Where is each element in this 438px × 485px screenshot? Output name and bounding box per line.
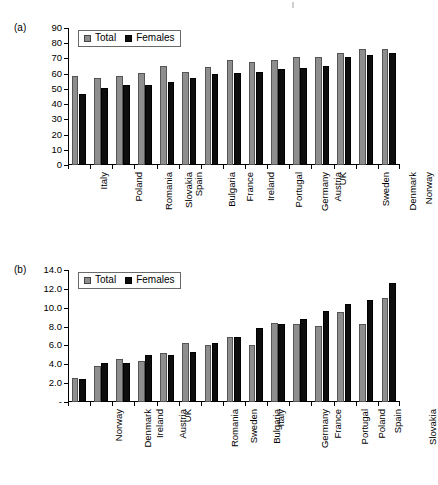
x-tick — [267, 402, 268, 406]
x-category-label: Italy — [99, 172, 109, 189]
bar-total — [249, 62, 256, 165]
bar-group — [90, 28, 112, 165]
legend-swatch-total-icon — [84, 35, 91, 42]
bar-females — [79, 94, 86, 165]
x-tick — [356, 402, 357, 406]
bar-total — [138, 73, 145, 165]
legend-a: Total Females — [78, 30, 181, 47]
bar-total — [116, 359, 123, 402]
bar-total — [249, 345, 256, 402]
y-tick-label: 30 — [51, 115, 62, 125]
y-tick-label: 40 — [51, 99, 62, 109]
bar-group — [157, 270, 179, 402]
legend-swatch-females-icon — [125, 277, 132, 284]
bar-group — [179, 28, 201, 165]
bar-total — [293, 57, 300, 165]
bar-females — [300, 68, 307, 165]
y-tick-label: 90 — [51, 23, 62, 33]
bar-total — [337, 53, 344, 165]
x-category-label: Slovakia — [184, 172, 194, 208]
bar-group — [378, 270, 400, 402]
x-tick — [267, 165, 268, 169]
legend-item-females-a: Females — [125, 33, 174, 43]
bar-females — [101, 88, 108, 165]
x-category-label: Spain — [394, 409, 404, 433]
x-tick — [157, 165, 158, 169]
x-tick — [179, 402, 180, 406]
bar-females — [278, 69, 285, 166]
bar-group — [179, 270, 201, 402]
bar-females — [345, 304, 352, 402]
x-tick — [90, 402, 91, 406]
legend-label-females: Females — [136, 33, 174, 43]
bar-total — [94, 78, 101, 165]
legend-label-females: Females — [136, 275, 174, 285]
bar-females — [389, 283, 396, 402]
bar-females — [145, 85, 152, 165]
x-category-label: Spain — [195, 172, 205, 196]
bar-females — [145, 355, 152, 402]
bar-females — [234, 73, 241, 165]
bar-total — [94, 366, 101, 402]
x-category-label: Germany — [320, 172, 330, 211]
bar-group — [334, 28, 356, 165]
x-category-label: Romania — [164, 172, 174, 210]
x-tick — [245, 165, 246, 169]
x-category-label: Poland — [377, 409, 387, 439]
bar-total — [182, 72, 189, 165]
bar-females — [79, 379, 86, 402]
bar-females — [278, 324, 285, 402]
x-category-label: France — [333, 409, 343, 439]
plot-area-b: -2.04.06.08.010.012.014.0 — [68, 270, 400, 402]
bar-females — [212, 74, 219, 165]
bar-group — [267, 28, 289, 165]
y-tick-label: 12.0 — [44, 284, 63, 294]
x-category-label: Poland — [133, 172, 143, 202]
bar-group — [68, 270, 90, 402]
panel-b-label: (b) — [14, 264, 26, 275]
x-category-label: Norway — [114, 409, 124, 441]
bar-group — [356, 28, 378, 165]
chart-panel-a: (a) 0102030405060708090 Total Females It… — [0, 0, 412, 245]
x-tick — [289, 165, 290, 169]
x-tick — [201, 402, 202, 406]
y-tick-label: 10.0 — [44, 303, 63, 313]
bar-females — [389, 53, 396, 165]
x-category-label: Slovakia — [428, 409, 438, 445]
bar-females — [323, 311, 330, 402]
y-tick-label: 8.0 — [49, 322, 62, 332]
x-tick — [179, 165, 180, 169]
bar-total — [271, 323, 278, 402]
legend-item-total-b: Total — [84, 275, 116, 285]
bar-total — [72, 76, 79, 165]
bar-total — [359, 324, 366, 402]
bar-group — [356, 270, 378, 402]
bar-total — [160, 353, 167, 403]
bar-females — [168, 355, 175, 402]
bar-females — [256, 72, 263, 165]
x-category-label: Portugal — [294, 172, 304, 207]
legend-label-total: Total — [95, 275, 116, 285]
bar-females — [345, 57, 352, 165]
bar-females — [300, 319, 307, 402]
bar-group — [201, 270, 223, 402]
x-tick — [223, 402, 224, 406]
bar-total — [382, 298, 389, 402]
x-category-label: Denmark — [408, 172, 418, 211]
x-tick — [289, 402, 290, 406]
bar-total — [315, 326, 322, 402]
legend-swatch-females-icon — [125, 35, 132, 42]
x-tick — [68, 402, 69, 406]
x-category-label: Ireland — [266, 172, 276, 201]
bar-females — [190, 78, 197, 165]
x-category-label: UK — [338, 172, 348, 185]
x-category-label: Norway — [424, 172, 434, 204]
bar-total — [337, 312, 344, 402]
x-category-label: Germany — [320, 409, 330, 448]
x-tick — [311, 165, 312, 169]
x-category-label: Denmark — [142, 409, 152, 448]
x-category-label: France — [244, 172, 254, 202]
bar-females — [123, 85, 130, 165]
bar-total — [382, 49, 389, 165]
y-tick-label: 2.0 — [49, 378, 62, 388]
